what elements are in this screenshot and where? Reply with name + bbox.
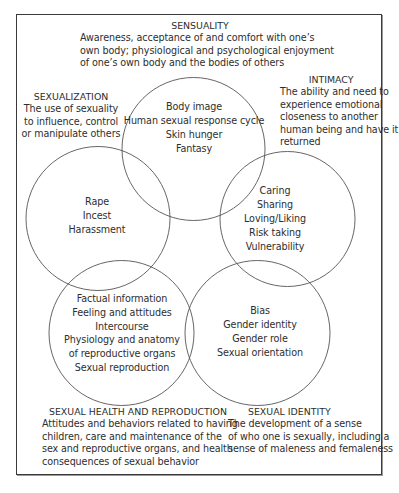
circle-item: Physiology and anatomy — [64, 333, 180, 347]
sexualization-description: SEXUALIZATION The use of sexuality to in… — [19, 91, 123, 141]
circle-item: Caring — [244, 184, 306, 198]
circle-item: Vulnerability — [244, 240, 306, 254]
sexual-identity-line: sense of maleness and femaleness — [228, 443, 378, 455]
circle-item: Incest — [68, 209, 125, 223]
intimacy-line: returned — [280, 136, 382, 148]
sexual-health-line: sex and reproductive organs, and health — [42, 443, 222, 455]
sexual-identity-line: of who one is sexually, including a — [228, 431, 378, 443]
circle-item: Harassment — [68, 223, 125, 237]
circle-item: Bias — [217, 304, 303, 318]
sensuality-line: of one’s own body and the bodies of othe… — [80, 57, 320, 69]
circle-item: Risk taking — [244, 226, 306, 240]
circle-item: Gender identity — [217, 318, 303, 332]
circle-item: Fantasy — [124, 142, 264, 156]
intimacy-circle-items: Caring Sharing Loving/Liking Risk taking… — [244, 184, 306, 254]
circle-item: Intercourse — [64, 320, 180, 334]
sexualization-circle-items: Rape Incest Harassment — [68, 195, 125, 237]
sexualization-line: The use of sexuality — [19, 103, 123, 115]
sexual-health-line: Attitudes and behaviors related to havin… — [42, 418, 222, 430]
sexual-identity-line: The development of a sense — [228, 418, 378, 430]
circle-item: Feeling and attitudes — [64, 306, 180, 320]
sexual-health-circle-items: Factual information Feeling and attitude… — [64, 292, 180, 375]
sexual-health-description: SEXUAL HEALTH AND REPRODUCTION Attitudes… — [42, 406, 222, 468]
sexual-identity-circle-items: Bias Gender identity Gender role Sexual … — [217, 304, 303, 360]
sexual-identity-description: SEXUAL IDENTITY The development of a sen… — [228, 406, 378, 456]
sexual-health-line: children, care and maintenance of the — [42, 431, 222, 443]
intimacy-description: INTIMACY The ability and need to experie… — [280, 74, 382, 148]
circle-item: Body image — [124, 100, 264, 114]
intimacy-title: INTIMACY — [280, 74, 382, 86]
circle-item: Factual information — [64, 292, 180, 306]
intimacy-line: closeness to another — [280, 111, 382, 123]
sexualization-title: SEXUALIZATION — [19, 91, 123, 103]
sexual-identity-title: SEXUAL IDENTITY — [228, 406, 378, 418]
sensuality-line: Awareness, acceptance of and comfort wit… — [80, 32, 320, 44]
circle-item: Sexual reproduction — [64, 361, 180, 375]
intimacy-line: experience emotional — [280, 99, 382, 111]
sexualization-line: to influence, control — [19, 116, 123, 128]
circle-item: Sharing — [244, 198, 306, 212]
sexual-health-line: consequences of sexual behavior — [42, 456, 222, 468]
sensuality-description: SENSUALITY Awareness, acceptance of and … — [80, 20, 320, 70]
circle-item: Skin hunger — [124, 128, 264, 142]
circle-item: Loving/Liking — [244, 212, 306, 226]
circle-item: Gender role — [217, 332, 303, 346]
sensuality-title: SENSUALITY — [80, 20, 320, 32]
sexual-health-title: SEXUAL HEALTH AND REPRODUCTION — [42, 406, 222, 418]
circle-item: Rape — [68, 195, 125, 209]
circle-item: Human sexual response cycle — [124, 114, 264, 128]
sexualization-line: or manipulate others — [19, 128, 123, 140]
sensuality-circle-items: Body image Human sexual response cycle S… — [124, 100, 264, 156]
circle-item: Sexual orientation — [217, 346, 303, 360]
intimacy-line: The ability and need to — [280, 86, 382, 98]
intimacy-line: human being and have it — [280, 124, 382, 136]
sensuality-line: own body; physiological and psychologica… — [80, 45, 320, 57]
circle-item: of reproductive organs — [64, 347, 180, 361]
